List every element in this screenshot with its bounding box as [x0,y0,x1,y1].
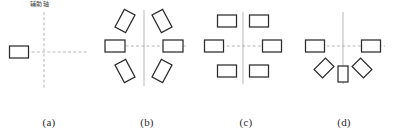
rect-bottom-center [338,66,348,82]
rect-upper-right [152,9,172,32]
panel-c-diagram [197,0,295,102]
rect-upper-left [115,9,135,32]
panel-a-caption: (a) [0,117,98,128]
rect-right [163,40,183,52]
rect-left [10,46,29,58]
rect-right [362,40,381,52]
diamond-lower-left [314,58,334,78]
panel-c: (c) [197,0,295,136]
rect-lower-right [152,59,172,82]
rect-upper-left [218,15,237,27]
panel-b-caption: (b) [98,117,196,128]
rect-left [306,40,325,52]
rect-upper-right [250,15,269,27]
rect-left [205,40,224,52]
panel-b: (b) [98,0,196,136]
diamond-lower-right [352,58,372,78]
rect-lower-right [250,65,269,77]
rect-lower-left [218,65,237,77]
axis-label-text: 辅助轴 [30,1,49,7]
panel-d-diagram [295,0,393,102]
panel-d: (d) [295,0,393,136]
panel-b-diagram [98,0,196,102]
panel-a: 辅助轴 (a) [0,0,98,136]
figure-root: 辅助轴 (a) (b) (c) (d) [0,0,393,136]
rect-left [105,40,125,52]
panel-a-diagram [0,0,98,102]
panel-c-caption: (c) [197,117,295,128]
rect-lower-left [115,59,135,82]
panel-d-caption: (d) [295,117,393,128]
rect-right [263,40,282,52]
